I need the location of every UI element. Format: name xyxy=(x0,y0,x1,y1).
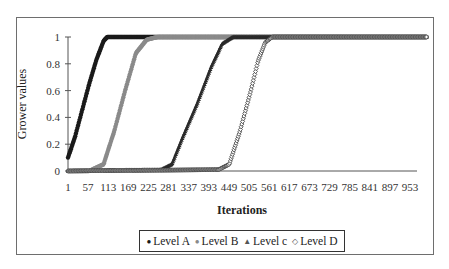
x-tick-label: 729 xyxy=(321,181,338,193)
legend-label: Level c xyxy=(253,235,287,247)
x-tick-label: 953 xyxy=(402,181,419,193)
x-tick-label: 785 xyxy=(341,181,358,193)
diamond-icon: ◇ xyxy=(292,237,298,246)
y-tick-label: 0.4 xyxy=(46,111,60,123)
x-tick-label: 897 xyxy=(382,181,399,193)
filled-circle-icon: ● xyxy=(146,237,151,246)
x-tick-label: 1 xyxy=(65,181,71,193)
x-tick-label: 449 xyxy=(221,181,238,193)
legend-item-level-c: ▲ Level c xyxy=(243,235,287,247)
legend-label: Level B xyxy=(202,235,239,247)
x-tick-label: 57 xyxy=(83,181,95,193)
y-tick-label: 0.6 xyxy=(46,85,60,97)
legend-label: Level A xyxy=(153,235,190,247)
legend-item-level-b: ● Level B xyxy=(195,235,239,247)
y-tick-label: 0 xyxy=(55,165,61,177)
filled-circle-icon: ● xyxy=(195,237,200,246)
x-tick-label: 113 xyxy=(100,181,117,193)
y-tick-label: 1 xyxy=(55,31,61,43)
x-tick-label: 505 xyxy=(241,181,258,193)
legend-item-level-a: ● Level A xyxy=(146,235,190,247)
x-tick-label: 225 xyxy=(140,181,157,193)
legend: ● Level A ● Level B ▲ Level c ◇ Level D xyxy=(139,230,345,252)
x-tick-label: 561 xyxy=(261,181,278,193)
x-tick-label: 393 xyxy=(201,181,218,193)
x-tick-label: 841 xyxy=(362,181,379,193)
legend-label: Level D xyxy=(300,235,337,247)
legend-item-level-d: ◇ Level D xyxy=(292,235,338,247)
x-tick-label: 337 xyxy=(180,181,197,193)
y-axis-label: Grower values xyxy=(15,54,29,154)
x-tick-label: 617 xyxy=(281,181,298,193)
x-tick-label: 169 xyxy=(120,181,137,193)
triangle-icon: ▲ xyxy=(243,237,251,246)
x-tick-label: 281 xyxy=(160,181,177,193)
x-tick-label: 673 xyxy=(301,181,318,193)
y-tick-label: 0.2 xyxy=(46,138,60,150)
plot-area: 00.20.40.60.8115711316922528133739344950… xyxy=(0,0,449,269)
y-tick-label: 0.8 xyxy=(46,58,60,70)
x-axis-label: Iterations xyxy=(217,203,267,218)
